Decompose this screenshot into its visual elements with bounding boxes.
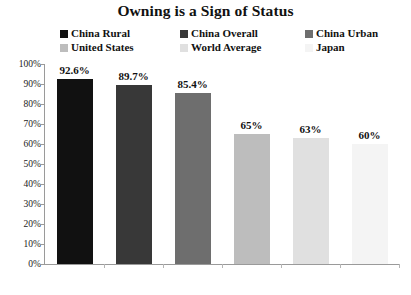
bar-slot: 85.4% (175, 64, 211, 264)
bar[interactable] (116, 85, 152, 264)
y-tick-label: 60% (24, 139, 41, 149)
y-tick-label: 90% (24, 79, 41, 89)
chart-title: Owning is a Sign of Status (0, 2, 411, 20)
x-tick-mark (163, 264, 164, 268)
y-tick-label: 70% (24, 119, 41, 129)
legend-swatch-icon (305, 44, 313, 52)
chart-legend: China Rural China Overall China Urban Un… (60, 27, 400, 55)
legend-item-china-overall: China Overall (180, 28, 305, 39)
bar-slot: 65% (234, 64, 270, 264)
y-tick-label: 30% (24, 199, 41, 209)
bar-value-label: 92.6% (59, 64, 89, 76)
legend-label: United States (71, 42, 134, 53)
y-tick-label: 10% (24, 239, 41, 249)
legend-label: China Rural (71, 28, 130, 39)
y-tick-label: 50% (24, 159, 41, 169)
bar[interactable] (57, 79, 93, 264)
bar-slot: 89.7% (116, 64, 152, 264)
legend-row: United States World Average Japan (60, 41, 400, 54)
y-tick-label: 40% (24, 179, 41, 189)
legend-label: Japan (316, 42, 345, 53)
x-tick-mark (399, 264, 400, 268)
legend-swatch-icon (305, 30, 313, 38)
legend-swatch-icon (60, 30, 68, 38)
y-tick-label: 80% (24, 99, 41, 109)
plot-area: 100%90%80%70%60%50%40%30%20%10%0% 92.6%8… (0, 64, 411, 274)
legend-item-japan: Japan (305, 42, 400, 53)
bar-value-label: 85.4% (177, 78, 207, 90)
bars-group: 92.6%89.7%85.4%65%63%60% (45, 64, 399, 264)
bar[interactable] (175, 93, 211, 264)
y-axis: 100%90%80%70%60%50%40%30%20%10%0% (8, 64, 41, 264)
bar-value-label: 89.7% (118, 70, 148, 82)
bar-slot: 60% (352, 64, 388, 264)
bar[interactable] (293, 138, 329, 264)
bar-value-label: 60% (359, 129, 381, 141)
legend-swatch-icon (180, 30, 188, 38)
legend-item-united-states: United States (60, 42, 180, 53)
legend-label: China Overall (191, 28, 258, 39)
y-tick-label: 100% (19, 59, 41, 69)
chart-container: Owning is a Sign of Status China Rural C… (0, 0, 411, 295)
legend-label: China Urban (316, 28, 378, 39)
legend-row: China Rural China Overall China Urban (60, 27, 400, 40)
x-tick-mark (281, 264, 282, 268)
bar-value-label: 63% (300, 123, 322, 135)
legend-item-world-average: World Average (180, 42, 305, 53)
bar[interactable] (352, 144, 388, 264)
x-tick-mark (340, 264, 341, 268)
bar-value-label: 65% (241, 119, 263, 131)
x-tick-mark (104, 264, 105, 268)
y-tick-label: 20% (24, 219, 41, 229)
bar[interactable] (234, 134, 270, 264)
bar-slot: 92.6% (57, 64, 93, 264)
legend-swatch-icon (180, 44, 188, 52)
legend-item-china-urban: China Urban (305, 28, 400, 39)
legend-swatch-icon (60, 44, 68, 52)
bar-slot: 63% (293, 64, 329, 264)
legend-label: World Average (191, 42, 261, 53)
x-tick-mark (222, 264, 223, 268)
legend-item-china-rural: China Rural (60, 28, 180, 39)
